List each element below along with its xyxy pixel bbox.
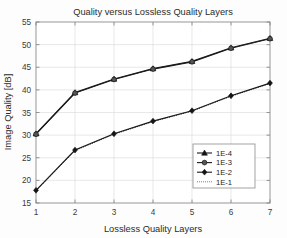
y-axis-label: Image Quality [dB] <box>3 74 13 150</box>
quality-vs-layers-chart: 1234567 152025303540455055 1E-41E-31E-21… <box>0 0 287 238</box>
y-tick-labels: 152025303540455055 <box>22 18 32 208</box>
x-tick-label: 6 <box>229 208 234 217</box>
y-tick-label: 15 <box>22 199 32 208</box>
legend-label: 1E-1 <box>216 178 232 187</box>
figure-canvas: 1234567 152025303540455055 1E-41E-31E-21… <box>0 0 287 238</box>
data-marker-circle <box>151 67 156 72</box>
y-tick-label: 50 <box>22 41 32 50</box>
x-tick-label: 2 <box>73 208 78 217</box>
y-tick-label: 20 <box>22 176 32 185</box>
x-tick-label: 3 <box>112 208 117 217</box>
chart-title: Quality versus Lossless Quality Layers <box>73 7 233 17</box>
x-tick-label: 4 <box>151 208 156 217</box>
x-tick-label: 1 <box>34 208 39 217</box>
data-marker-circle <box>229 46 234 51</box>
data-marker-circle <box>268 36 273 41</box>
x-tick-labels: 1234567 <box>34 208 273 217</box>
y-tick-label: 45 <box>22 63 32 72</box>
data-marker-circle <box>112 77 117 82</box>
y-tick-label: 55 <box>22 18 32 27</box>
chart-legend: 1E-41E-31E-21E-1 <box>193 144 255 188</box>
x-tick-label: 5 <box>190 208 195 217</box>
data-marker-circle <box>34 132 39 137</box>
legend-label: 1E-3 <box>216 158 232 167</box>
y-tick-label: 25 <box>22 154 32 163</box>
data-marker-circle <box>202 160 207 165</box>
y-tick-label: 40 <box>22 86 32 95</box>
x-tick-label: 7 <box>268 208 273 217</box>
y-tick-label: 30 <box>22 131 32 140</box>
legend-label: 1E-2 <box>216 168 232 177</box>
legend-label: 1E-4 <box>216 149 232 158</box>
y-tick-label: 35 <box>22 109 32 118</box>
data-marker-circle <box>190 59 195 64</box>
data-marker-circle <box>73 91 78 96</box>
x-axis-label: Lossless Quality Layers <box>104 224 203 234</box>
